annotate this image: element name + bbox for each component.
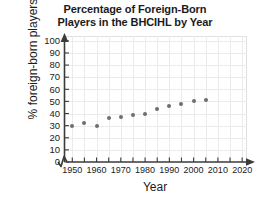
y-tick-label: 90 xyxy=(34,48,60,58)
y-tick-label: 20 xyxy=(34,133,60,143)
gridline-vertical xyxy=(133,36,134,162)
gridline-horizontal xyxy=(65,65,247,66)
y-tick-label: 30 xyxy=(34,121,60,131)
data-point xyxy=(119,115,123,119)
gridline-horizontal xyxy=(65,150,247,151)
gridline-vertical xyxy=(169,36,170,162)
data-point xyxy=(143,112,147,116)
x-axis-tick-labels: 19501960197019801990200020102020 xyxy=(0,166,266,180)
gridline-vertical xyxy=(72,36,73,162)
data-point xyxy=(95,124,99,128)
gridline-horizontal xyxy=(65,89,247,90)
y-tick-label: 100 xyxy=(34,36,60,46)
gridline-vertical xyxy=(230,36,231,162)
gridline-vertical xyxy=(109,36,110,162)
data-point xyxy=(192,99,196,103)
y-tick-label: 60 xyxy=(34,85,60,95)
y-tick-label: 70 xyxy=(34,72,60,82)
x-axis-label: Year xyxy=(60,180,250,194)
data-point xyxy=(167,104,171,108)
gridline-horizontal xyxy=(65,138,247,139)
gridline-horizontal xyxy=(65,41,247,42)
data-point xyxy=(155,107,159,111)
x-tick-label: 2020 xyxy=(227,166,257,175)
data-point xyxy=(131,113,135,117)
y-tick-label: 80 xyxy=(34,60,60,70)
data-point xyxy=(107,116,111,120)
chart-figure: Percentage of Foreign-Born Players in th… xyxy=(0,0,266,202)
y-tick-label: 50 xyxy=(34,97,60,107)
grid-border-top xyxy=(65,36,247,37)
y-tick-label: 40 xyxy=(34,109,60,119)
data-point xyxy=(179,102,183,106)
data-point xyxy=(82,121,86,125)
gridline-vertical xyxy=(181,36,182,162)
gridline-vertical xyxy=(242,36,243,162)
gridline-horizontal xyxy=(65,53,247,54)
data-point xyxy=(204,98,208,102)
grid-border-right xyxy=(246,36,247,162)
gridline-horizontal xyxy=(65,77,247,78)
data-point xyxy=(70,124,74,128)
gridline-horizontal xyxy=(65,114,247,115)
gridline-vertical xyxy=(157,36,158,162)
gridline-vertical xyxy=(97,36,98,162)
gridline-vertical xyxy=(145,36,146,162)
y-tick-label: 10 xyxy=(34,145,60,155)
gridline-vertical xyxy=(218,36,219,162)
gridline-horizontal xyxy=(65,101,247,102)
gridline-vertical xyxy=(84,36,85,162)
gridline-horizontal xyxy=(65,126,247,127)
gridline-vertical xyxy=(121,36,122,162)
plot-area xyxy=(65,36,247,162)
